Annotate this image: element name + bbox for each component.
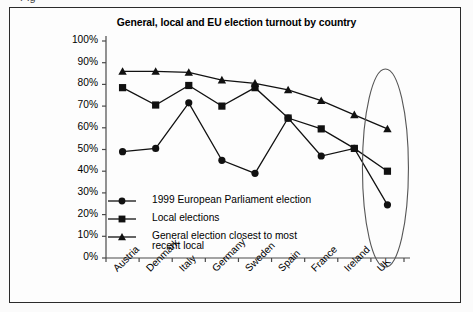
chart-svg	[0, 0, 473, 312]
y-axis-tick-label: 60%	[54, 121, 98, 132]
data-point-marker	[350, 111, 358, 119]
y-axis-tick-label: 0%	[54, 251, 98, 262]
y-axis-tick-label: 80%	[54, 77, 98, 88]
data-point-marker	[351, 145, 358, 152]
data-point-marker	[383, 125, 391, 133]
data-point-marker	[119, 84, 126, 91]
legend-label-0: 1999 European Parliament election	[152, 194, 311, 205]
plot-area	[0, 0, 473, 312]
y-axis-tick-label: 100%	[54, 34, 98, 45]
data-point-marker	[119, 148, 126, 155]
data-point-marker	[251, 170, 258, 177]
legend-label-2: General election closest to mostrecent l…	[152, 230, 297, 251]
data-point-marker	[152, 101, 159, 108]
data-point-marker	[218, 157, 225, 164]
data-point-marker	[318, 152, 325, 159]
legend-label-1: Local elections	[152, 212, 219, 223]
data-point-marker	[218, 103, 225, 110]
data-point-marker	[119, 216, 126, 223]
series-group	[118, 67, 391, 208]
data-point-marker	[384, 201, 391, 208]
series-line-1	[123, 85, 388, 171]
data-point-marker	[185, 82, 192, 89]
data-point-marker	[318, 125, 325, 132]
y-axis-tick-label: 50%	[54, 143, 98, 154]
series-line-0	[123, 103, 388, 205]
y-axis-tick-label: 30%	[54, 186, 98, 197]
y-axis-tick-label: 10%	[54, 229, 98, 240]
y-axis-tick-label: 40%	[54, 164, 98, 175]
data-point-marker	[119, 198, 126, 205]
data-point-marker	[185, 99, 192, 106]
y-axis-tick-label: 90%	[54, 56, 98, 67]
legend-markers-group	[108, 198, 136, 241]
y-axis-tick-label: 20%	[54, 208, 98, 219]
figure-container: Fig General, local and EU election turno…	[0, 0, 473, 312]
data-point-marker	[152, 145, 159, 152]
data-point-marker	[285, 114, 292, 121]
data-point-marker	[384, 168, 391, 175]
y-axis-tick-label: 70%	[54, 99, 98, 110]
